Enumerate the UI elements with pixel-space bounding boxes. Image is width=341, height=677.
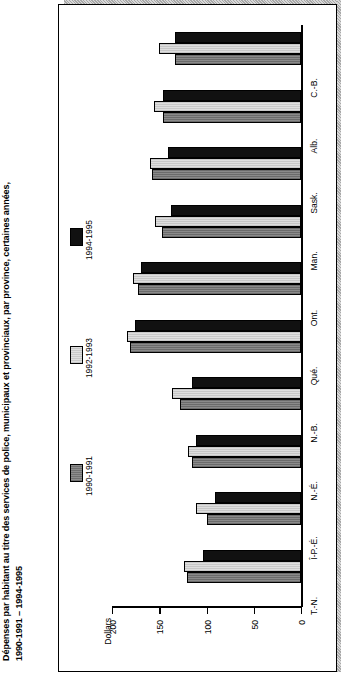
axis-tick: [301, 606, 302, 614]
bar-Alb-1994-1995: [163, 90, 301, 101]
axis-tick: [207, 606, 208, 614]
axis-tick-label: 150: [155, 620, 165, 654]
chart-legend: 1994-19951992-19931990-1991: [60, 150, 108, 530]
axis-tick: [254, 606, 255, 614]
category-label: T.-N.: [309, 586, 319, 626]
bar-NB-1990-1991: [180, 399, 301, 410]
bar-Qu-1990-1991: [130, 342, 301, 353]
page-title-line-2: 1990-1991 – 1994-1995: [13, 0, 26, 661]
axis-tick-label: 0: [297, 620, 307, 654]
bar-Sask-1992-1993: [150, 158, 301, 169]
bar-TN-1990-1991: [187, 572, 301, 583]
bar-Sask-1994-1995: [168, 147, 301, 158]
category-label: Man.: [309, 241, 319, 281]
page-title-line-1: Dépenses par habitant au titre des servi…: [0, 0, 13, 661]
bar-Ont-1992-1993: [133, 273, 301, 284]
bar-Ont-1994-1995: [141, 262, 301, 273]
bar-Alb-1992-1993: [154, 101, 301, 112]
bar-CB-1990-1991: [175, 54, 301, 65]
bar-Qu-1994-1995: [135, 320, 301, 331]
bar-P-1992-1993: [196, 503, 301, 514]
bar-TN-1992-1993: [184, 561, 301, 572]
bar-NB-1992-1993: [172, 388, 301, 399]
category-label: Î-P.-É.: [309, 528, 319, 568]
bar-Man-1990-1991: [162, 227, 301, 238]
legend-item-1992-1993: 1992-1993: [60, 268, 108, 388]
bar-Man-1994-1995: [171, 205, 301, 216]
legend-swatch: [70, 464, 83, 482]
legend-item-1990-1991: 1990-1991: [60, 386, 108, 506]
bar-CB-1994-1995: [175, 32, 301, 43]
legend-swatch: [70, 228, 83, 246]
bar-Qu-1992-1993: [127, 331, 301, 342]
bar-Alb-1990-1991: [163, 112, 301, 123]
legend-label: 1990-1991: [84, 456, 94, 520]
bar-CB-1992-1993: [159, 43, 301, 54]
category-label: N.-B.: [309, 413, 319, 453]
bar-TN-1994-1995: [203, 550, 301, 561]
bar-N-1990-1991: [192, 457, 301, 468]
axis-tick-label: 50: [250, 620, 260, 654]
chart-title-block: Dépenses par habitant au titre des servi…: [0, 0, 40, 677]
axis-tick-label: 100: [203, 620, 213, 654]
category-label: N.-É.: [309, 471, 319, 511]
bar-N-1992-1993: [188, 446, 301, 457]
bar-Sask-1990-1991: [152, 169, 301, 180]
category-label: Qué.: [309, 356, 319, 396]
category-label: Alb.: [309, 126, 319, 166]
legend-item-1994-1995: 1994-1995: [60, 150, 108, 270]
category-label: Sask.: [309, 183, 319, 223]
category-label: C.-B.: [309, 68, 319, 108]
bar-Ont-1990-1991: [138, 284, 301, 295]
legend-swatch: [70, 346, 83, 364]
category-label: Ont.: [309, 298, 319, 338]
axis-tick: [112, 606, 113, 614]
bar-NB-1994-1995: [192, 377, 301, 388]
bar-P-1994-1995: [215, 492, 301, 503]
bar-N-1994-1995: [196, 435, 301, 446]
axis-tick-label: 200: [108, 620, 118, 654]
bar-P-1990-1991: [207, 514, 302, 525]
zero-baseline: [301, 25, 303, 607]
axis-tick: [159, 606, 160, 614]
bar-Man-1992-1993: [155, 216, 301, 227]
